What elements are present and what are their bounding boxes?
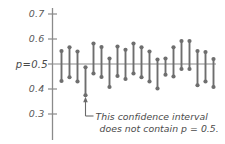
- interval-endpoint-lower: [195, 83, 199, 87]
- interval-endpoint-upper: [91, 41, 95, 45]
- confidence-interval-2: [67, 45, 71, 79]
- interval-endpoint-upper: [171, 45, 175, 49]
- y-tick-label-0.4: 0.4: [29, 83, 45, 94]
- confidence-interval-chart: 0.70.60.40.3 This confidence interval do…: [0, 0, 225, 144]
- interval-endpoint-lower: [203, 79, 207, 83]
- interval-endpoint-upper: [83, 65, 87, 69]
- confidence-interval-3: [75, 49, 79, 83]
- interval-endpoint-lower: [179, 67, 183, 71]
- confidence-interval-14: [163, 56, 167, 76]
- interval-endpoint-lower: [75, 79, 79, 83]
- annotation-line-2: does not contain p = 0.5.: [100, 123, 219, 134]
- interval-endpoint-upper: [211, 57, 215, 61]
- interval-endpoint-lower: [131, 71, 135, 75]
- leader-arrowhead-icon: [83, 97, 88, 103]
- interval-endpoint-lower: [163, 73, 167, 77]
- interval-endpoint-upper: [59, 49, 63, 53]
- confidence-interval-5: [91, 41, 95, 75]
- interval-endpoint-upper: [179, 39, 183, 43]
- confidence-interval-11: [139, 45, 143, 79]
- confidence-interval-12: [147, 49, 151, 83]
- interval-endpoint-lower: [59, 79, 63, 83]
- interval-endpoint-lower: [123, 77, 127, 81]
- annotation-leader: [83, 97, 93, 116]
- confidence-interval-8: [115, 44, 119, 78]
- interval-endpoint-upper: [115, 44, 119, 48]
- interval-endpoint-lower: [187, 67, 191, 71]
- interval-endpoint-lower: [139, 75, 143, 79]
- interval-endpoint-upper: [75, 49, 79, 53]
- y-tick-label-0.7: 0.7: [29, 8, 45, 19]
- interval-endpoint-upper: [67, 45, 71, 49]
- interval-endpoint-lower: [171, 74, 175, 78]
- confidence-interval-1: [59, 49, 63, 83]
- interval-endpoint-lower: [115, 74, 119, 78]
- interval-endpoint-lower: [91, 71, 95, 75]
- confidence-interval-13: [155, 57, 159, 90]
- confidence-interval-19: [203, 50, 207, 84]
- interval-endpoint-lower: [67, 75, 71, 79]
- interval-endpoint-lower: [211, 85, 215, 89]
- confidence-interval-7: [107, 56, 111, 89]
- interval-endpoint-lower: [83, 93, 87, 97]
- interval-endpoint-upper: [99, 45, 103, 49]
- reference-line-label: p=0.5: [15, 59, 48, 70]
- y-tick-label-0.3: 0.3: [29, 108, 45, 119]
- confidence-interval-4: [83, 65, 87, 97]
- interval-endpoint-upper: [195, 49, 199, 53]
- chart-canvas: 0.70.60.40.3 This confidence interval do…: [0, 0, 225, 144]
- interval-endpoint-upper: [123, 48, 127, 52]
- confidence-interval-17: [187, 39, 191, 71]
- interval-group: [59, 39, 215, 97]
- interval-endpoint-lower: [99, 75, 103, 79]
- interval-endpoint-lower: [147, 79, 151, 83]
- interval-endpoint-upper: [163, 56, 167, 60]
- interval-endpoint-lower: [107, 85, 111, 89]
- confidence-interval-18: [195, 49, 199, 87]
- annotation-line-1: This confidence interval: [96, 111, 209, 122]
- confidence-interval-6: [99, 45, 103, 79]
- confidence-interval-20: [211, 57, 215, 89]
- interval-endpoint-upper: [203, 50, 207, 54]
- confidence-interval-10: [131, 41, 135, 75]
- interval-endpoint-upper: [139, 45, 143, 49]
- y-axis: [48, 8, 57, 140]
- confidence-interval-16: [179, 39, 183, 71]
- confidence-interval-15: [171, 45, 175, 78]
- interval-endpoint-upper: [187, 39, 191, 43]
- y-tick-label-0.6: 0.6: [29, 33, 45, 44]
- interval-endpoint-upper: [147, 49, 151, 53]
- interval-endpoint-upper: [107, 56, 111, 60]
- interval-endpoint-upper: [155, 57, 159, 61]
- interval-endpoint-upper: [131, 41, 135, 45]
- interval-endpoint-lower: [155, 86, 159, 90]
